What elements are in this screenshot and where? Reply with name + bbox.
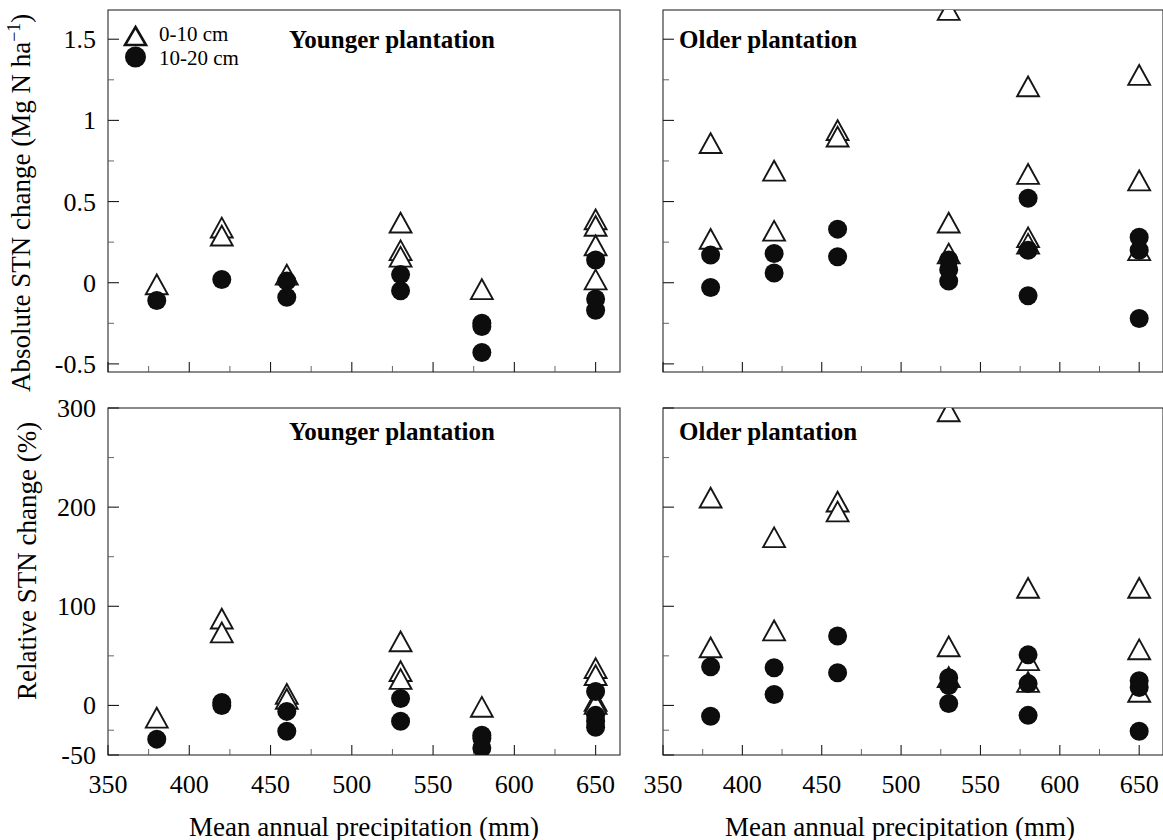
y-tick-label: -0.5 bbox=[55, 350, 96, 379]
datapoint-filled-circle bbox=[147, 730, 166, 749]
datapoint-filled-circle bbox=[586, 682, 605, 701]
legend: 0-10 cm 10-20 cm bbox=[125, 22, 239, 70]
datapoint-filled-circle bbox=[701, 707, 720, 726]
datapoint-filled-circle bbox=[212, 696, 231, 715]
x-tick-label: 400 bbox=[170, 770, 209, 799]
datapoint-open-triangle bbox=[763, 621, 785, 641]
x-tick-label: 350 bbox=[89, 770, 128, 799]
y-axis-title-text: Absolute STN change (Mg N ha−1) bbox=[4, 14, 36, 392]
datapoint-filled-circle bbox=[1130, 678, 1149, 697]
panel-frame bbox=[663, 408, 1163, 755]
panel-axes: 350400450500550600650 bbox=[644, 408, 1159, 799]
datapoint-filled-circle bbox=[765, 658, 784, 677]
datapoint-filled-circle bbox=[391, 281, 410, 300]
datapoint-open-triangle bbox=[700, 637, 722, 657]
panel-frame bbox=[663, 10, 1163, 372]
datapoint-open-triangle bbox=[1128, 171, 1150, 191]
y-tick-label: 1.5 bbox=[64, 25, 97, 54]
panel-title: Younger plantation bbox=[289, 26, 495, 53]
y-tick-label: 1 bbox=[83, 106, 96, 135]
datapoint-open-triangle bbox=[585, 270, 607, 290]
panel-top-right: Older plantation bbox=[663, 0, 1163, 372]
datapoint-open-triangle bbox=[938, 213, 960, 233]
y-axis-title-relative: Relative STN change (%) bbox=[12, 422, 42, 700]
datapoint-filled-circle bbox=[277, 272, 296, 291]
datapoint-filled-circle bbox=[765, 263, 784, 282]
y-tick-label: -50 bbox=[61, 741, 96, 770]
scatter-figure: 1.510.50-0.5 Younger plantation 0-10 cm … bbox=[0, 0, 1163, 840]
y-tick-label: 100 bbox=[57, 592, 96, 621]
x-tick-label: 350 bbox=[644, 770, 683, 799]
datapoint-filled-circle bbox=[939, 272, 958, 291]
datapoint-filled-circle bbox=[147, 291, 166, 310]
x-tick-label: 650 bbox=[576, 770, 615, 799]
panel-title: Older plantation bbox=[679, 26, 857, 53]
datapoint-open-triangle bbox=[1017, 578, 1039, 598]
x-tick-label: 450 bbox=[251, 770, 290, 799]
x-tick-label: 650 bbox=[1120, 770, 1159, 799]
datapoint-filled-circle bbox=[1019, 706, 1038, 725]
x-tick-label: 600 bbox=[1040, 770, 1079, 799]
datapoint-open-triangle bbox=[146, 708, 168, 728]
datapoint-filled-circle bbox=[472, 739, 491, 758]
datapoint-filled-circle bbox=[586, 250, 605, 269]
datapoint-filled-circle bbox=[586, 718, 605, 737]
datapoint-filled-circle bbox=[391, 689, 410, 708]
datapoint-open-triangle bbox=[763, 527, 785, 547]
x-tick-label: 500 bbox=[882, 770, 921, 799]
legend-filled-circle-icon bbox=[125, 47, 146, 68]
datapoint-filled-circle bbox=[1019, 674, 1038, 693]
panel-datapoints bbox=[146, 609, 607, 758]
datapoint-filled-circle bbox=[277, 288, 296, 307]
datapoint-filled-circle bbox=[277, 702, 296, 721]
figure-container: 1.510.50-0.5 Younger plantation 0-10 cm … bbox=[0, 0, 1163, 840]
datapoint-filled-circle bbox=[1019, 241, 1038, 260]
panel-frame bbox=[108, 408, 620, 755]
y-tick-label: 0 bbox=[83, 269, 96, 298]
datapoint-filled-circle bbox=[1130, 722, 1149, 741]
datapoint-filled-circle bbox=[701, 657, 720, 676]
datapoint-filled-circle bbox=[828, 627, 847, 646]
datapoint-open-triangle bbox=[700, 488, 722, 508]
panel-axes: 3002001000-50350400450500550600650 bbox=[57, 394, 615, 799]
x-axis-title-right: Mean annual precipitation (mm) bbox=[725, 812, 1075, 840]
datapoint-open-triangle bbox=[1128, 65, 1150, 85]
x-tick-label: 450 bbox=[802, 770, 841, 799]
y-axis-title-absolute: Absolute STN change (Mg N ha−1) bbox=[4, 14, 36, 392]
panel-bottom-left: 3002001000-50350400450500550600650 Young… bbox=[12, 394, 620, 840]
legend-open-triangle-icon bbox=[125, 27, 146, 45]
datapoint-open-triangle bbox=[700, 133, 722, 153]
datapoint-filled-circle bbox=[1019, 645, 1038, 664]
panel-title: Older plantation bbox=[679, 418, 857, 445]
datapoint-filled-circle bbox=[1130, 309, 1149, 328]
datapoint-filled-circle bbox=[828, 663, 847, 682]
datapoint-filled-circle bbox=[701, 278, 720, 297]
x-tick-label: 550 bbox=[414, 770, 453, 799]
datapoint-filled-circle bbox=[212, 270, 231, 289]
datapoint-filled-circle bbox=[828, 220, 847, 239]
x-tick-label: 500 bbox=[332, 770, 371, 799]
datapoint-filled-circle bbox=[472, 317, 491, 336]
panel-top-left: 1.510.50-0.5 Younger plantation 0-10 cm … bbox=[4, 10, 620, 392]
datapoint-open-triangle bbox=[471, 697, 493, 717]
datapoint-open-triangle bbox=[471, 279, 493, 299]
datapoint-filled-circle bbox=[939, 694, 958, 713]
datapoint-open-triangle bbox=[390, 631, 412, 651]
panel-title: Younger plantation bbox=[289, 418, 495, 445]
x-tick-label: 550 bbox=[961, 770, 1000, 799]
datapoint-open-triangle bbox=[763, 221, 785, 241]
panel-datapoints bbox=[146, 210, 607, 362]
datapoint-open-triangle bbox=[1128, 639, 1150, 659]
datapoint-open-triangle bbox=[1128, 578, 1150, 598]
datapoint-open-triangle bbox=[763, 161, 785, 181]
datapoint-filled-circle bbox=[1019, 189, 1038, 208]
datapoint-filled-circle bbox=[765, 244, 784, 263]
x-tick-label: 400 bbox=[723, 770, 762, 799]
datapoint-open-triangle bbox=[1017, 76, 1039, 96]
y-tick-label: 200 bbox=[57, 493, 96, 522]
datapoint-filled-circle bbox=[1019, 286, 1038, 305]
datapoint-open-triangle bbox=[390, 213, 412, 233]
datapoint-filled-circle bbox=[1130, 241, 1149, 260]
y-tick-label: 300 bbox=[57, 394, 96, 423]
x-tick-label: 600 bbox=[495, 770, 534, 799]
